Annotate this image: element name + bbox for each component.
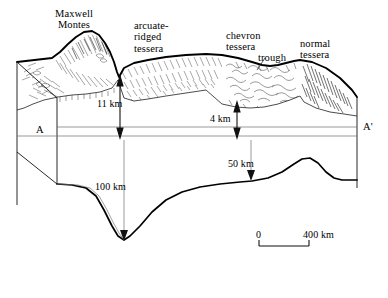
relief-base-line (17, 80, 357, 116)
measure-4km-arrow (234, 102, 240, 138)
label-chevron-tessera: chevron tessera (226, 30, 261, 53)
label-normal-tessera-line2: tessera (300, 49, 330, 60)
label-maxwell-montes-line2: Montes (44, 19, 104, 30)
label-normal-tessera: normal tessera (300, 38, 330, 61)
arcuate-ridged-tessera-texture (122, 57, 222, 103)
label-maxwell-montes-line1: Maxwell (44, 8, 104, 19)
label-elevation-11km: 11 km (97, 99, 122, 110)
label-depth-100km: 100 km (95, 182, 126, 193)
label-section-end: A' (363, 121, 373, 132)
label-depth-50km: 50 km (228, 159, 254, 170)
label-arcuate-ridged-tessera: arcuate- ridged tessera (134, 20, 169, 54)
label-maxwell-montes: Maxwell Montes (44, 8, 104, 31)
normal-tessera-texture (302, 64, 352, 113)
maxwell-crest-ridges (72, 37, 107, 59)
scale-bar (259, 240, 309, 246)
label-chevron-tessera-line2: tessera (226, 41, 261, 52)
label-arcuate-ridged-tessera-line2: ridged (134, 31, 169, 42)
block-left-face (17, 62, 57, 240)
label-scale-max: 400 km (303, 230, 334, 241)
cross-section-figure: Maxwell Montes arcuate- ridged tessera c… (0, 0, 388, 298)
label-elevation-4km: 4 km (210, 114, 231, 125)
label-arcuate-ridged-tessera-line3: tessera (134, 43, 169, 54)
label-arcuate-ridged-tessera-line1: arcuate- (134, 20, 169, 31)
label-trough: trough (258, 52, 286, 63)
label-section-start: A (36, 124, 44, 135)
label-scale-zero: 0 (256, 230, 261, 241)
label-normal-tessera-line1: normal (300, 38, 330, 49)
label-chevron-tessera-line1: chevron (226, 30, 261, 41)
